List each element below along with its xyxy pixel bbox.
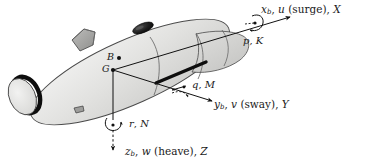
dorsal-fin	[72, 29, 95, 51]
pitch-rotation-arrow	[172, 86, 188, 97]
yaw-label: r, N	[129, 119, 149, 129]
point-G-label: G	[102, 64, 110, 74]
x-axis-label: xb, u (surge), X	[261, 4, 341, 16]
point-B-label: B	[107, 52, 114, 62]
vehicle-hull-group	[3, 0, 249, 145]
z-axis-label: zb, w (heave), Z	[125, 146, 208, 158]
y-axis-label: yb, v (sway), Y	[214, 99, 289, 111]
point-B	[117, 56, 121, 60]
auv-body-frame-diagram	[0, 0, 370, 168]
roll-label: p, K	[243, 36, 263, 46]
pitch-label: q, M	[192, 80, 215, 90]
